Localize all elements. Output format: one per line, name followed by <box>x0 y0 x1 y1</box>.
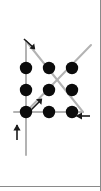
nine-dots-puzzle-diagram <box>0 0 101 191</box>
dot-r3-c1 <box>20 106 32 118</box>
dot-r3-c2 <box>43 106 55 118</box>
dot-r1-c1 <box>20 62 32 74</box>
dot-r1-c3 <box>66 62 78 74</box>
dot-r2-c1 <box>20 84 32 96</box>
dot-r2-c3 <box>66 84 78 96</box>
dot-r2-c2 <box>43 84 55 96</box>
dot-grid-group <box>20 62 78 118</box>
frame-bottom-border <box>0 186 101 187</box>
frame-right-border <box>100 0 101 191</box>
dot-r1-c2 <box>43 62 55 74</box>
puzzle-figure-container: Nine dots puzzle solution Nine black dot… <box>0 0 101 191</box>
